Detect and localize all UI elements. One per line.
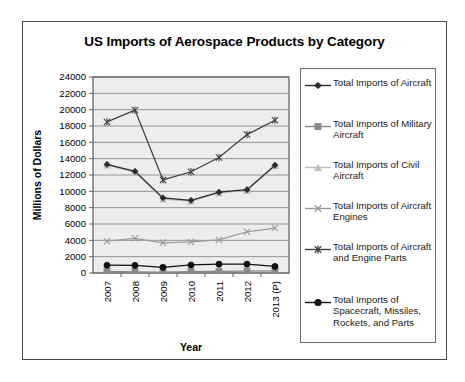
y-tick-label: 8000 — [65, 202, 86, 213]
y-tick-label: 4000 — [65, 235, 86, 246]
data-point — [244, 261, 250, 267]
legend-label: Total Imports of Aircraft and Engine Par… — [331, 241, 435, 264]
legend-item[interactable]: Total Imports of Aircraft Engines — [305, 200, 435, 223]
y-axis-title: Millions of Dollars — [31, 130, 43, 221]
legend-label: Total Imports of Spacecraft, Missiles, R… — [331, 294, 435, 328]
x-tick-label: 2009 — [158, 281, 169, 302]
legend-item[interactable]: Total Imports of Aircraft and Engine Par… — [305, 241, 435, 264]
legend-item[interactable]: Total Imports of Military Aircraft — [305, 118, 435, 141]
chart-container: US Imports of Aerospace Products by Cate… — [22, 21, 447, 360]
data-point — [216, 261, 222, 267]
chart-legend: Total Imports of AircraftTotal Imports o… — [300, 68, 436, 343]
y-tick-label: 14000 — [59, 153, 86, 164]
legend-marker-cross-icon — [305, 201, 331, 213]
y-tick-label: 12000 — [59, 169, 86, 180]
legend-marker-circle-icon — [305, 295, 331, 307]
legend-marker-star-icon — [305, 242, 331, 254]
y-tick-label: 20000 — [59, 104, 86, 115]
x-tick-label: 2011 — [214, 281, 225, 302]
data-point — [104, 262, 110, 268]
y-tick-label: 6000 — [65, 218, 86, 229]
x-tick-label: 2007 — [102, 281, 113, 302]
y-tick-label: 16000 — [59, 137, 86, 148]
x-tick-label: 2013 (P) — [270, 281, 281, 318]
legend-marker-triangle-icon — [305, 160, 331, 172]
data-point — [160, 264, 166, 270]
y-tick-label: 2000 — [65, 251, 86, 262]
y-tick-label: 22000 — [59, 88, 86, 99]
legend-marker-square-icon — [305, 119, 331, 131]
y-tick-label: 24000 — [59, 71, 86, 82]
data-point — [132, 269, 138, 275]
data-point — [132, 262, 138, 268]
data-point — [272, 263, 278, 269]
data-point — [188, 269, 194, 275]
y-tick-label: 10000 — [59, 186, 86, 197]
legend-label: Total Imports of Aircraft Engines — [331, 200, 435, 223]
y-tick-label: 18000 — [59, 120, 86, 131]
data-point — [188, 262, 194, 268]
x-tick-label: 2010 — [186, 281, 197, 302]
x-axis-title: Year — [180, 341, 202, 353]
legend-label: Total Imports of Military Aircraft — [331, 118, 435, 141]
legend-label: Total Imports of Civil Aircraft — [331, 159, 435, 182]
x-tick-label: 2012 — [242, 281, 253, 302]
legend-item[interactable]: Total Imports of Civil Aircraft — [305, 159, 435, 182]
legend-item[interactable]: Total Imports of Aircraft — [305, 77, 435, 90]
x-tick-label: 2008 — [130, 281, 141, 302]
legend-label: Total Imports of Aircraft — [331, 77, 431, 88]
legend-marker-diamond-icon — [305, 78, 331, 90]
y-tick-label: 0 — [81, 267, 86, 278]
legend-item[interactable]: Total Imports of Spacecraft, Missiles, R… — [305, 294, 435, 328]
